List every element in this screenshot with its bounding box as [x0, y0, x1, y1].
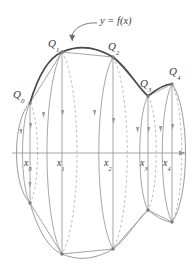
point-Q3	[146, 94, 149, 97]
chord-top-0-1	[30, 52, 62, 103]
label-x0: x0	[24, 158, 32, 170]
curve-equation-label: y = f(x)	[100, 16, 132, 27]
curve-equation-text: y = f(x)	[100, 15, 132, 26]
point-Q2-mirror	[111, 247, 114, 250]
label-x0-subscript: 0	[28, 165, 31, 172]
point-Q2	[111, 55, 114, 58]
x-axis-arrowhead	[179, 150, 186, 155]
label-Q0-subscript: 0	[21, 97, 24, 104]
label-Q3: Q3	[140, 78, 151, 92]
point-Q4	[170, 82, 173, 85]
rotation-arrow-x3-inner	[147, 127, 150, 133]
label-Q1-subscript: 1	[56, 46, 59, 53]
label-x1-subscript: 1	[61, 165, 64, 172]
rotation-arrowheads	[19, 110, 174, 188]
point-Q3-mirror	[146, 208, 149, 211]
label-x2: x2	[104, 158, 112, 170]
point-Q0	[28, 101, 31, 104]
label-x3: x3	[140, 158, 148, 170]
rotation-arrow-x3-outer	[136, 127, 139, 133]
rotation-arrow-lower-x0	[28, 182, 31, 188]
label-Q1: Q1	[48, 38, 59, 52]
label-Q0: Q0	[13, 89, 24, 103]
pointer-arrowhead	[69, 35, 75, 42]
point-Q0-mirror	[28, 201, 31, 204]
label-Q2: Q2	[108, 41, 119, 55]
rotation-arrow-x4-inner	[171, 124, 174, 130]
label-x3-subscript: 3	[144, 165, 147, 172]
point-Q4-mirror	[170, 220, 173, 223]
rotation-arrow-x0-outer	[19, 129, 22, 135]
rotation-arrow-x1-outer	[42, 112, 45, 118]
point-Q1-mirror	[60, 252, 63, 255]
point-Q1	[60, 50, 63, 53]
label-x2-subscript: 2	[108, 165, 111, 172]
label-Q4-subscript: 4	[177, 74, 180, 81]
rotation-arrow-x1-inner	[61, 110, 64, 116]
rotation-arrow-x2-inner	[112, 118, 115, 124]
rotation-arrow-x0-inner	[29, 123, 32, 129]
chord-bottom-0-1	[30, 203, 62, 254]
surface-of-revolution-figure: y = f(x) Q0 Q1 Q2 Q3 Q4 x0 x1 x2 x3 x4	[0, 0, 194, 272]
label-Q3-subscript: 3	[148, 86, 151, 93]
rotation-arrow-x4-outer	[159, 126, 162, 132]
label-x1: x1	[57, 158, 65, 170]
figure-canvas	[0, 0, 194, 272]
pointer-arc	[72, 23, 97, 36]
label-x4-subscript: 4	[167, 165, 170, 172]
label-Q4: Q4	[169, 66, 180, 80]
rotation-arrow-x2-outer	[93, 110, 96, 116]
label-Q2-subscript: 2	[116, 49, 119, 56]
chord-bottom-2-3	[113, 210, 148, 249]
label-x4: x4	[163, 158, 171, 170]
curve-label-pointer	[69, 23, 97, 42]
